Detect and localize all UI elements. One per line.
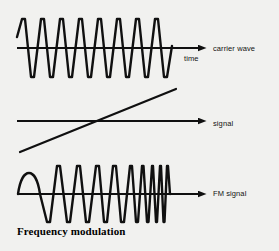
fm-signal-label: FM signal (213, 190, 246, 198)
fm-signal-panel (17, 166, 198, 222)
figure-caption: Frequency modulation (17, 226, 125, 237)
frequency-modulation-diagram (0, 0, 279, 251)
carrier-wave-panel (17, 19, 198, 77)
signal-label: signal (213, 120, 233, 128)
carrier-wave-label: carrier wave (213, 45, 255, 53)
time-axis-label: time (184, 55, 199, 63)
signal-panel (17, 89, 198, 152)
